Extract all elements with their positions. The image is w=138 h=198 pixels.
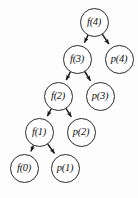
node-p3[interactable]: p(3) xyxy=(86,82,115,111)
node-f4[interactable]: f(4) xyxy=(80,8,109,37)
node-f0[interactable]: f(0) xyxy=(10,154,39,183)
edge-f2-to-f1 xyxy=(48,109,51,115)
node-p2[interactable]: p(2) xyxy=(67,118,96,147)
edge-f1-to-f0 xyxy=(31,146,33,151)
node-label: p(2) xyxy=(73,126,89,137)
node-label: f(1) xyxy=(32,126,46,137)
node-f1[interactable]: f(1) xyxy=(25,118,54,147)
node-p4[interactable]: p(4) xyxy=(105,45,134,74)
node-f3[interactable]: f(3) xyxy=(63,45,92,74)
edge-f2-to-p2 xyxy=(66,109,71,117)
node-f2[interactable]: f(2) xyxy=(44,82,73,111)
node-p1[interactable]: p(1) xyxy=(51,154,80,183)
node-label: f(0) xyxy=(17,162,31,173)
node-label: f(4) xyxy=(87,16,101,27)
node-label: p(4) xyxy=(111,53,127,64)
node-label: f(2) xyxy=(51,90,65,101)
edge-f1-to-p1 xyxy=(48,144,54,153)
node-label: f(3) xyxy=(70,53,84,64)
node-label: p(1) xyxy=(57,162,73,173)
edge-f4-to-p4 xyxy=(102,34,108,43)
edge-f4-to-f3 xyxy=(85,36,88,43)
edge-f3-to-p3 xyxy=(85,72,90,81)
node-label: p(3) xyxy=(92,90,108,101)
recursion-tree-diagram: f(4) f(3) p(4) f(2) p(3) f(1) p(2) f(0) … xyxy=(0,0,138,198)
edge-f3-to-f2 xyxy=(66,72,70,79)
